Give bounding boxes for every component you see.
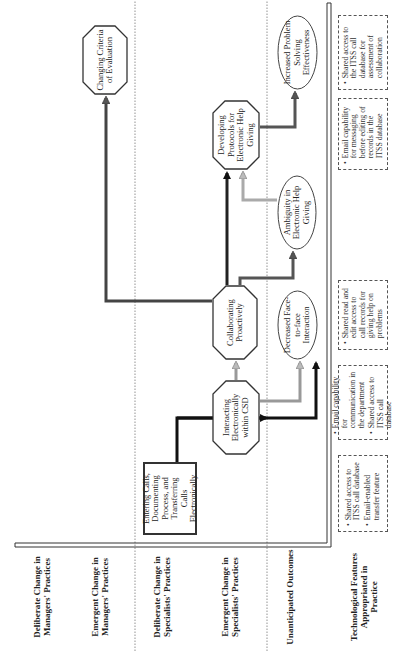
feature-item: Shared access to ITSS call database [368, 371, 394, 434]
row-label-emergent-managers: Emergent Change in Managers' Practices [83, 549, 117, 645]
node-decreased-interaction: Decreased Face-to-face Interaction [277, 290, 318, 360]
feature-box-4: Email capability for messaging before ed… [338, 98, 388, 170]
node-collaborating-proactively: Collaborating Proactively [212, 285, 258, 360]
feature-item: Email capability for communication in th… [332, 371, 366, 434]
feature-box-2: Email capability for communication in th… [338, 365, 388, 440]
node-ambiguity-label: Ambiguity in Electronic Help Giving [283, 175, 312, 250]
node-developing-protocols: Developing Protocols for Electronic Help… [212, 100, 260, 170]
node-changing-criteria: Changing Criteria of Evaluation [82, 25, 128, 95]
feature-item: Shared access to ITSS call database [345, 461, 362, 526]
node-increased-effectiveness: Increased Problem Solving Effectiveness [277, 15, 318, 90]
node-decreased-label: Decreased Face-to-face Interaction [283, 290, 312, 360]
row-label-emergent-specialists: Emergent Change in Specialists' Practice… [213, 549, 247, 645]
row-label-deliberate-managers: Deliberate Change in Managers' Practices [25, 549, 59, 645]
node-entering-calls: Entering Calls, Documenting Process, and… [143, 462, 197, 535]
node-entering-calls-label: Entering Calls, Documenting Process, and… [142, 464, 199, 533]
node-ambiguity: Ambiguity in Electronic Help Giving [277, 175, 317, 250]
feature-item: Email-enabled transfer feature [364, 461, 381, 526]
diagram-canvas: Deliberate Change in Managers' Practices… [0, 0, 404, 651]
feature-box-1: Shared access to ITSS call database Emai… [338, 455, 388, 532]
node-changing-criteria-label: Changing Criteria of Evaluation [96, 25, 115, 95]
row-label-technological-features: Technological Features Appropriated in P… [342, 549, 386, 645]
feature-box-5: Shared access to the ITSS call database … [338, 15, 388, 90]
row-label-deliberate-specialists: Deliberate Change in Specialists' Practi… [145, 549, 179, 645]
node-increased-label: Increased Problem Solving Effectiveness [283, 15, 312, 90]
node-collaborating-label: Collaborating Proactively [226, 285, 245, 360]
feature-item: Shared read and edit access to call reco… [342, 286, 385, 344]
feature-item: Shared access to the ITSS call database … [342, 21, 385, 84]
feature-item: Email capability for messaging before ed… [342, 104, 385, 164]
node-interacting-electronically: Interacting Electronically within CSD [212, 380, 260, 455]
row-label-unanticipated-outcomes: Unanticipated Outcomes [278, 549, 302, 645]
node-interacting-label: Interacting Electronically within CSD [222, 380, 251, 455]
feature-box-3: Shared read and edit access to call reco… [338, 280, 388, 350]
node-developing-label: Developing Protocols for Electronic Help… [217, 100, 255, 170]
